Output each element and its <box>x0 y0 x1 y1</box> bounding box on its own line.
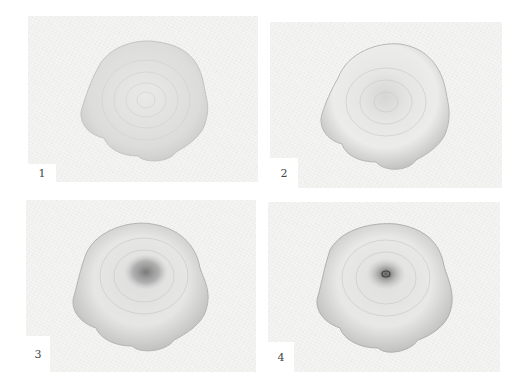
panel-1: 1 <box>28 16 258 182</box>
panel-number: 2 <box>281 167 288 180</box>
lobed-form-drawing <box>28 16 258 182</box>
panel-number: 3 <box>35 348 42 361</box>
lobed-form-drawing <box>270 22 502 188</box>
panel-2: 2 <box>270 22 502 188</box>
panel-label: 1 <box>28 164 56 182</box>
lobed-form-drawing <box>26 200 256 372</box>
panel-4: 4 <box>268 202 500 372</box>
panel-number: 1 <box>39 167 46 180</box>
panel-label: 3 <box>26 336 50 372</box>
lobed-form-drawing <box>268 202 500 372</box>
panel-number: 4 <box>278 351 285 364</box>
panel-label: 2 <box>270 158 298 188</box>
panel-3: 3 <box>26 200 256 372</box>
panel-label: 4 <box>268 342 294 372</box>
